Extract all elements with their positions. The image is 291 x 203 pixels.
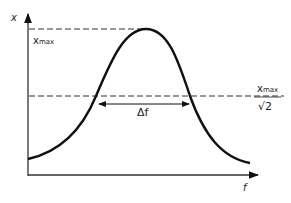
- half-power-denominator: √2: [258, 101, 272, 112]
- half-power-num-sub: max: [263, 86, 278, 94]
- x-axis-label: f: [243, 183, 247, 193]
- xmax-label-sub: max: [39, 38, 54, 46]
- xmax-label: xmax: [33, 36, 54, 46]
- half-power-numerator: xmax: [257, 84, 278, 94]
- resonance-diagram: [0, 0, 291, 203]
- bandwidth-label: Δf: [137, 107, 148, 118]
- y-axis-label: x: [11, 13, 17, 23]
